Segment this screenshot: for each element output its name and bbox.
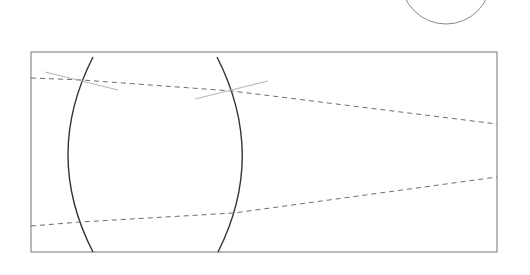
- normal-left-surface: [45, 72, 118, 90]
- lens-right-surface: [217, 57, 242, 252]
- lower-ray: [31, 177, 497, 226]
- normal-right-surface: [195, 81, 268, 99]
- lens-ray-diagram: [0, 0, 530, 275]
- upper-ray: [31, 78, 497, 124]
- circle-shape: [401, 0, 491, 24]
